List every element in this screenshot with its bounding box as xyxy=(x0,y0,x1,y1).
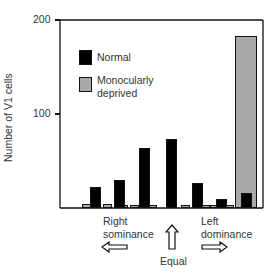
annotation-right-2: sominance xyxy=(103,228,154,240)
annotation-left-1: Left xyxy=(201,215,219,227)
bar-monocularly-deprived xyxy=(202,205,210,208)
legend-swatch-monocularly-deprived xyxy=(79,77,92,92)
left-arrow-icon xyxy=(101,241,129,253)
y-axis-label: Number of V1 cells xyxy=(2,73,14,162)
bar-monocularly-deprived xyxy=(226,205,234,208)
bar-monocularly-deprived xyxy=(103,204,112,208)
bar-monocularly-deprived xyxy=(235,36,257,208)
bar-normal xyxy=(241,193,252,208)
bar-normal xyxy=(166,139,177,208)
bar-normal xyxy=(192,183,203,208)
right-arrow-icon xyxy=(200,241,228,253)
legend-label-md-2: deprived xyxy=(97,87,137,99)
y-tick-100: 100 xyxy=(33,107,51,119)
bar-normal xyxy=(139,148,150,208)
bar-normal xyxy=(216,199,227,208)
annotation-left-2: dominance xyxy=(201,228,252,240)
legend-label-normal: Normal xyxy=(97,51,131,63)
y-tick-200: 200 xyxy=(33,13,51,25)
bar-normal xyxy=(90,187,101,208)
up-arrow-icon xyxy=(165,224,179,250)
annotation-equal: Equal xyxy=(160,255,187,267)
bar-monocularly-deprived xyxy=(130,205,139,208)
chart: 200 100 Number of V1 cells Normal Monocu… xyxy=(0,0,276,274)
legend-label-md-1: Monocularly xyxy=(97,74,154,86)
annotation-right-1: Right xyxy=(103,215,128,227)
bar-normal xyxy=(114,180,125,208)
legend-swatch-normal xyxy=(79,50,92,65)
bar-monocularly-deprived xyxy=(181,205,190,208)
